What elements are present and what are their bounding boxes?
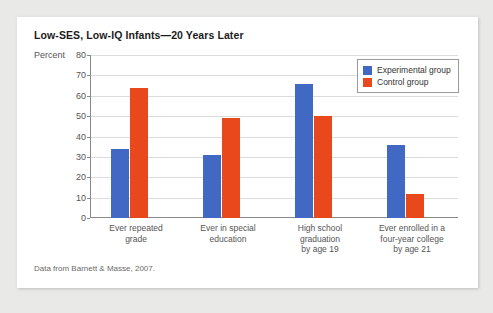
chart-legend: Experimental group Control group [357,59,459,93]
legend-swatch-control-icon [363,78,372,87]
y-axis-tick-label: 0 [81,213,86,223]
legend-label-experimental: Experimental group [377,65,451,75]
x-axis-category-label: Ever repeatedgrade [90,223,182,244]
bar-group [182,55,274,218]
chart-title: Low-SES, Low-IQ Infants—20 Years Later [34,29,244,41]
x-axis-category-label: Ever enrolled in afour-year collegeby ag… [366,223,458,255]
source-note: Data from Barnett & Masse, 2007. [34,264,155,273]
y-axis-tick-label: 20 [76,172,86,182]
y-axis-tick-labels: 01020304050607080 [63,55,86,218]
legend-swatch-experimental-icon [363,66,372,75]
y-axis-label: Percent [34,50,65,60]
bar-control [222,118,240,218]
bar-experimental [203,155,221,218]
y-axis-tick-label: 60 [76,91,86,101]
bar-control [314,116,332,218]
y-axis-tick-label: 70 [76,70,86,80]
y-axis-tick-mark [87,218,90,219]
bar-group [274,55,366,218]
bar-experimental [111,149,129,218]
bar-experimental [387,145,405,218]
bar-control [130,88,148,218]
y-axis-tick-label: 10 [76,193,86,203]
y-axis-tick-label: 80 [76,50,86,60]
legend-item-experimental: Experimental group [363,64,451,76]
legend-item-control: Control group [363,76,451,88]
y-axis-tick-label: 50 [76,111,86,121]
x-axis-category-label: Ever in specialeducation [182,223,274,244]
legend-label-control: Control group [377,77,429,87]
bar-control [406,194,424,218]
y-axis-tick-label: 40 [76,132,86,142]
bar-experimental [295,84,313,218]
y-axis-tick-label: 30 [76,152,86,162]
figure-card: Low-SES, Low-IQ Infants—20 Years Later P… [17,17,478,288]
bar-group [90,55,182,218]
x-axis-category-label: High schoolgraduationby age 19 [274,223,366,255]
